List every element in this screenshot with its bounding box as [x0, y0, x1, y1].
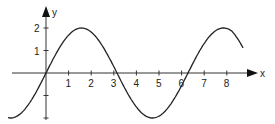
y-axis-label: y: [52, 7, 57, 18]
chart: x y 12345678 12: [0, 0, 275, 124]
x-axis-arrow-icon: [247, 69, 258, 77]
x-tick-label: 3: [111, 78, 117, 89]
x-tick-label: 6: [179, 78, 185, 89]
x-tick-label: 8: [224, 78, 230, 89]
y-axis: y: [42, 6, 57, 120]
x-tick-label: 1: [66, 78, 72, 89]
y-tick-label: 2: [34, 23, 40, 34]
x-tick-label: 2: [88, 78, 94, 89]
y-tick-label: 1: [34, 46, 40, 57]
x-tick-label: 7: [201, 78, 207, 89]
x-axis-label: x: [260, 68, 265, 79]
x-tick-label: 4: [133, 78, 139, 89]
x-tick-label: 5: [156, 78, 162, 89]
y-axis-arrow-icon: [42, 6, 50, 17]
